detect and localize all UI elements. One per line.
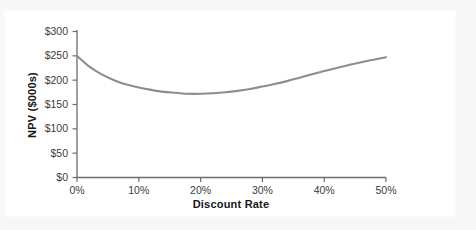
- y-axis-tick-label: $0: [56, 171, 68, 183]
- y-axis-tick-label: $300: [45, 25, 69, 37]
- x-axis-tick-label: 50%: [375, 184, 396, 196]
- y-axis-tick-label: $150: [45, 98, 69, 110]
- y-axis-tick-label: $50: [50, 147, 68, 159]
- y-axis-tick-label: $100: [45, 122, 69, 134]
- x-axis-tick-label: 10%: [128, 184, 149, 196]
- x-axis-tick-label: 0%: [69, 184, 84, 196]
- x-axis-tick-label: 40%: [314, 184, 335, 196]
- x-axis-tick-labels: 0%10%20%30%40%50%: [69, 184, 396, 196]
- x-axis-title: Discount Rate: [193, 198, 270, 210]
- chart-svg: $0$50$100$150$200$250$300 0%10%20%30%40%…: [0, 0, 476, 230]
- chart-screenshot: $0$50$100$150$200$250$300 0%10%20%30%40%…: [0, 0, 476, 230]
- y-axis-tick-label: $250: [45, 49, 69, 61]
- x-axis-ticks: [77, 178, 386, 183]
- x-axis-tick-label: 20%: [190, 184, 211, 196]
- y-axis-ticks: [73, 32, 78, 178]
- y-axis-tick-labels: $0$50$100$150$200$250$300: [45, 25, 69, 183]
- npv-discount-rate-chart: $0$50$100$150$200$250$300 0%10%20%30%40%…: [0, 0, 476, 230]
- y-axis-title: NPV ($000s): [26, 72, 38, 138]
- x-axis-tick-label: 30%: [252, 184, 273, 196]
- npv-curve-line: [77, 56, 386, 94]
- y-axis-tick-label: $200: [45, 74, 69, 86]
